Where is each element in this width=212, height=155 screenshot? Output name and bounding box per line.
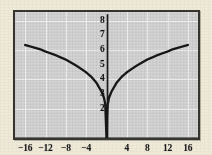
y-axis-tick-label: 3	[96, 89, 105, 99]
figure-container: −16−12−8−44812168765432	[0, 0, 212, 155]
x-axis-tick-label: −16	[18, 144, 32, 154]
y-axis-tick-label: 7	[96, 31, 105, 41]
graph-plot-area	[15, 12, 198, 138]
y-axis-tick-label: 6	[96, 45, 105, 55]
x-axis-tick-label: 4	[125, 144, 130, 154]
y-axis-tick-label: 4	[96, 75, 105, 85]
x-axis-tick-label: 16	[183, 144, 192, 154]
y-axis-tick-label: 2	[96, 104, 105, 114]
x-axis-tick-label: 12	[163, 144, 172, 154]
plot-frame	[13, 10, 200, 140]
y-axis-tick-label: 8	[96, 16, 105, 26]
x-axis-tick-label: −12	[38, 144, 52, 154]
x-axis-tick-label: 8	[145, 144, 150, 154]
x-axis-tick-label: −4	[81, 144, 91, 154]
x-axis-tick-label: −8	[61, 144, 71, 154]
y-axis-tick-label: 5	[96, 60, 105, 70]
